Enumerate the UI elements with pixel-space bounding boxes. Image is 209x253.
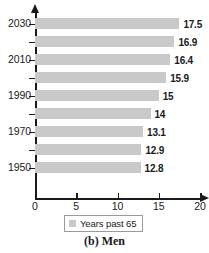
bar-row: 12.9: [35, 144, 209, 155]
bar-value-label: 17.5: [183, 18, 202, 29]
y-axis-tick: [29, 78, 35, 80]
x-axis-tick: [76, 193, 78, 199]
y-axis-tick-label: 2030: [8, 17, 31, 29]
x-axis-tick-label: 15: [153, 200, 165, 212]
bar-chart-plot-area: 17.516.916.415.9151413.112.912.8 2030201…: [0, 0, 209, 205]
y-axis-tick-label: 1970: [8, 125, 31, 137]
y-axis-tick: [29, 42, 35, 44]
y-axis-arrowhead-icon: [31, 4, 39, 13]
bar-value-label: 12.8: [145, 162, 164, 173]
bar-value-label: 12.9: [145, 144, 164, 155]
bar-row: 14: [35, 108, 209, 119]
bar-row: 15: [35, 90, 209, 101]
x-axis-tick: [118, 193, 120, 199]
bar-value-label: 16.9: [178, 36, 197, 47]
y-axis-tick-label: 1990: [8, 89, 31, 101]
bar-value-label: 13.1: [147, 126, 166, 137]
bar-row: 13.1: [35, 126, 209, 137]
bar-value-label: 15: [163, 90, 174, 101]
bar: [35, 108, 151, 119]
x-axis-tick: [200, 193, 202, 199]
legend-swatch-icon: [69, 220, 76, 227]
x-axis-tick-label: 20: [194, 200, 206, 212]
bar: [35, 90, 159, 101]
bar: [35, 126, 143, 137]
y-axis-tick: [29, 114, 35, 116]
chart-legend: Years past 65: [64, 215, 143, 232]
y-axis-tick-label: 2010: [8, 53, 31, 65]
figure-men-years-past-65: 17.516.916.415.9151413.112.912.8 2030201…: [0, 0, 209, 253]
bar-row: 16.9: [35, 36, 209, 47]
bar-value-label: 14: [155, 108, 166, 119]
bar-row: 17.5: [35, 18, 209, 29]
figure-caption: (b) Men: [0, 234, 209, 249]
legend-entry-label: Years past 65: [80, 218, 136, 229]
bar-value-label: 16.4: [174, 54, 193, 65]
bar-row: 15.9: [35, 72, 209, 83]
bar: [35, 144, 141, 155]
y-axis-tick: [29, 150, 35, 152]
bar-row: 16.4: [35, 54, 209, 65]
bar-value-label: 15.9: [170, 72, 189, 83]
x-axis-tick-label: 0: [32, 200, 38, 212]
bar-row: 12.8: [35, 162, 209, 173]
x-axis-tick: [35, 193, 37, 199]
x-axis-tick-label: 5: [73, 200, 79, 212]
bar: [35, 54, 170, 65]
x-axis-tick: [159, 193, 161, 199]
bar: [35, 162, 141, 173]
bar: [35, 18, 179, 29]
y-axis-tick-label: 1950: [8, 161, 31, 173]
x-axis-tick-label: 10: [112, 200, 124, 212]
bar: [35, 72, 166, 83]
bar: [35, 36, 174, 47]
